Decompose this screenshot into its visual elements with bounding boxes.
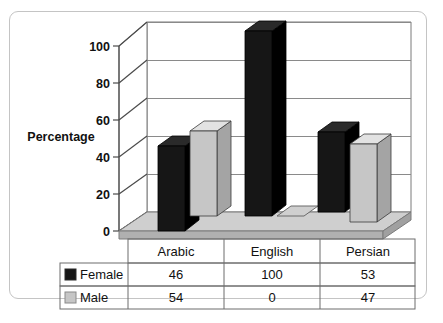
y-axis-title: Percentage bbox=[27, 130, 94, 144]
chart-container: 100 80 60 40 20 0 Percentage bbox=[0, 0, 443, 323]
data-table-row-male: Male 54 0 47 bbox=[60, 286, 415, 309]
cell-female-arabic: 46 bbox=[169, 267, 183, 282]
bar-arabic-male bbox=[190, 121, 231, 216]
legend-label-female: Female bbox=[80, 267, 123, 282]
legend-swatch-female bbox=[65, 269, 76, 280]
cell-female-persian: 53 bbox=[361, 267, 375, 282]
category-label-arabic: Arabic bbox=[158, 244, 195, 259]
cell-male-arabic: 54 bbox=[169, 290, 183, 305]
bar-persian-male bbox=[350, 134, 391, 222]
cell-male-persian: 47 bbox=[361, 290, 375, 305]
cell-female-english: 100 bbox=[261, 267, 283, 282]
y-tick-label-100: 100 bbox=[89, 40, 110, 54]
y-tick-label-40: 40 bbox=[96, 151, 110, 165]
y-tick-label-80: 80 bbox=[96, 77, 110, 91]
y-tick-label-60: 60 bbox=[96, 114, 110, 128]
legend-swatch-male bbox=[65, 292, 76, 303]
y-axis-ticks bbox=[113, 46, 119, 231]
cell-male-english: 0 bbox=[268, 290, 275, 305]
category-label-persian: Persian bbox=[346, 244, 390, 259]
data-table-header-row: Arabic English Persian bbox=[128, 239, 415, 263]
y-tick-label-0: 0 bbox=[103, 225, 110, 239]
data-table-row-female: Female 46 100 53 bbox=[60, 263, 415, 286]
legend-label-male: Male bbox=[80, 290, 108, 305]
plot-left-wall bbox=[119, 22, 147, 231]
bar-english-female bbox=[245, 21, 286, 216]
y-tick-label-20: 20 bbox=[96, 188, 110, 202]
bar-chart-svg: 100 80 60 40 20 0 Percentage bbox=[0, 0, 443, 323]
category-label-english: English bbox=[251, 244, 294, 259]
